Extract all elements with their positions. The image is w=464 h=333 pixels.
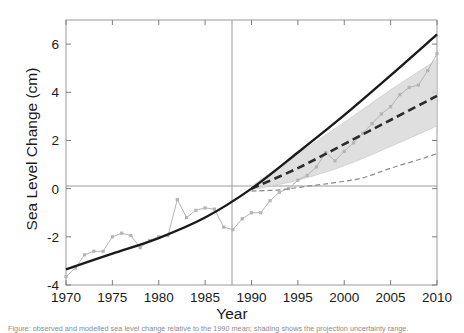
svg-text:-4: -4: [47, 278, 59, 293]
svg-text:4: 4: [51, 85, 59, 100]
svg-text:6: 6: [51, 37, 59, 52]
svg-text:0: 0: [51, 182, 59, 197]
svg-text:2000: 2000: [329, 290, 359, 305]
svg-text:1980: 1980: [144, 290, 174, 305]
x-axis-label: Year: [0, 305, 464, 323]
svg-text:1985: 1985: [190, 290, 220, 305]
svg-text:2010: 2010: [422, 290, 452, 305]
y-axis-label: Sea Level Change (cm): [23, 39, 41, 259]
svg-text:2: 2: [51, 133, 59, 148]
figure-caption: Figure: observed and modelled sea level …: [8, 325, 458, 333]
svg-text:1990: 1990: [236, 290, 266, 305]
sea-level-change-chart: 197019751980198519901995200020052010-4-2…: [0, 0, 464, 333]
svg-text:1975: 1975: [97, 290, 127, 305]
svg-text:-2: -2: [47, 230, 59, 245]
figure-container: 197019751980198519901995200020052010-4-2…: [0, 0, 464, 333]
svg-text:2005: 2005: [376, 290, 406, 305]
svg-text:1995: 1995: [283, 290, 313, 305]
plot-frame: [66, 20, 437, 285]
